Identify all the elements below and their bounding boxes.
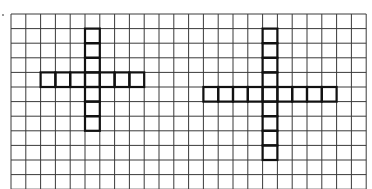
right-cross-cell <box>263 131 278 146</box>
grid-canvas <box>10 13 367 189</box>
square-grid <box>10 13 367 189</box>
left-cross-cell <box>85 102 100 117</box>
right-cross-cell <box>263 29 278 44</box>
left-cross-cell <box>100 72 115 87</box>
left-cross-cell <box>115 72 130 87</box>
left-cross-cell <box>85 72 100 87</box>
left-cross-cell <box>41 72 56 87</box>
left-cross-cell <box>85 29 100 44</box>
right-cross-cell <box>263 87 278 102</box>
right-cross-cell <box>263 72 278 87</box>
right-cross-cell <box>233 87 248 102</box>
margin-dot <box>2 14 4 16</box>
right-cross-cell <box>263 102 278 117</box>
right-cross-cell <box>263 145 278 160</box>
right-cross-cell <box>292 87 307 102</box>
right-cross-cell <box>322 87 337 102</box>
right-cross-cell <box>307 87 322 102</box>
left-cross-cell <box>85 116 100 131</box>
right-cross-cell <box>263 116 278 131</box>
left-cross-cell <box>85 43 100 58</box>
left-cross-cell <box>85 58 100 73</box>
left-cross-cell <box>129 72 144 87</box>
right-cross-cell <box>248 87 263 102</box>
left-cross-cell <box>70 72 85 87</box>
left-cross-cell <box>85 87 100 102</box>
right-cross-cell <box>263 43 278 58</box>
left-cross-cell <box>55 72 70 87</box>
right-cross-cell <box>263 58 278 73</box>
right-cross-cell <box>203 87 218 102</box>
right-cross-cell <box>218 87 233 102</box>
right-cross-cell <box>277 87 292 102</box>
